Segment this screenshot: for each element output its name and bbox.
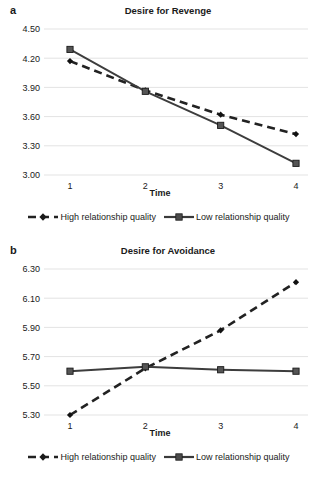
y-tick-label: 5.30 [22,410,40,420]
square-marker [142,88,148,94]
y-tick-label: 5.90 [22,323,40,333]
y-tick-label: 3.90 [22,83,40,93]
y-tick-label: 3.60 [22,112,40,122]
y-tick-label: 5.70 [22,352,40,362]
solid-square-marker-icon [164,452,194,462]
panel-a-svg: 3.003.303.603.904.204.501234 [0,0,318,205]
y-tick-label: 3.30 [22,141,40,151]
series-line-low [70,367,296,371]
y-tick-label: 6.10 [22,294,40,304]
panel-b-legend-label-high: High relationship quality [60,452,156,462]
series-line-high [70,61,296,134]
x-tick-label: 4 [293,421,298,431]
dashed-diamond-marker-icon [28,452,58,462]
series-line-high [70,282,296,415]
panel-b-svg: 5.305.505.705.906.106.301234 [0,240,318,445]
y-tick-label: 4.20 [22,54,40,64]
panel-a-legend-label-low: Low relationship quality [196,212,290,222]
diamond-marker [293,279,299,285]
y-tick-label: 6.30 [22,264,40,274]
panel-b-plot-area: 5.305.505.705.906.106.301234 [0,240,318,445]
panel-b-legend-item-low[interactable]: Low relationship quality [164,452,290,462]
panel-a-legend-item-low[interactable]: Low relationship quality [164,212,290,222]
panel-a-legend-item-high[interactable]: High relationship quality [28,212,156,222]
panel-a-xaxis-title: Time [40,188,280,198]
panel-a-legend-label-high: High relationship quality [60,212,156,222]
square-marker [293,160,299,166]
diamond-marker [293,131,299,137]
y-tick-label: 3.00 [22,170,40,180]
x-tick-label: 4 [293,181,298,191]
figure-two-panel-line-charts: a Desire for Revenge 3.003.303.603.904.2… [0,0,318,481]
square-marker [218,367,224,373]
dashed-diamond-marker-icon [28,212,58,222]
y-tick-label: 4.50 [22,24,40,34]
panel-a-legend: High relationship quality Low relationsh… [0,212,318,222]
panel-a: a Desire for Revenge 3.003.303.603.904.2… [0,0,318,240]
panel-b-legend: High relationship quality Low relationsh… [0,452,318,462]
panel-b: b Desire for Avoidance 5.305.505.705.906… [0,240,318,481]
square-marker [67,46,73,52]
panel-a-plot-area: 3.003.303.603.904.204.501234 [0,0,318,205]
square-marker [218,122,224,128]
square-marker [142,364,148,370]
panel-b-xaxis-title: Time [40,428,280,438]
square-marker [67,368,73,374]
panel-b-legend-label-low: Low relationship quality [196,452,290,462]
y-tick-label: 5.50 [22,381,40,391]
panel-b-legend-item-high[interactable]: High relationship quality [28,452,156,462]
square-marker [293,368,299,374]
solid-square-marker-icon [164,212,194,222]
